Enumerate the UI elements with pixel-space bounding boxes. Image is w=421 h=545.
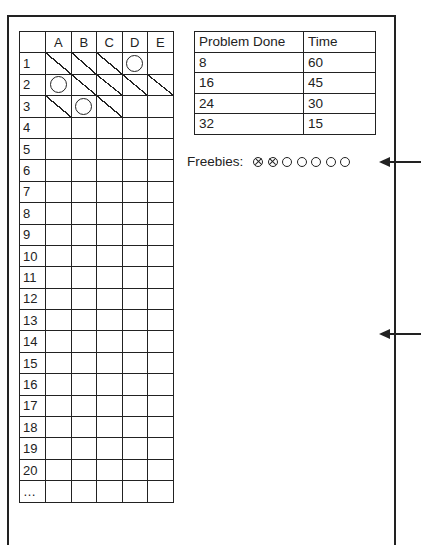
grid-row: 5 [20,138,174,159]
circle-mark-cell [122,53,148,74]
empty-cell [46,459,72,480]
grid-row: 17 [20,395,174,416]
empty-cell [122,245,148,266]
empty-cell [148,288,174,309]
freebie-tokens [253,157,355,167]
empty-cell [71,395,97,416]
slash-mark-cell [46,53,72,74]
row-label: 13 [20,310,46,331]
empty-cell [97,203,123,224]
empty-cell [71,203,97,224]
progress-header-cell: Problem Done [195,32,304,53]
empty-cell [46,288,72,309]
freebies-row: Freebies: [187,154,355,169]
progress-header-row: Problem DoneTime [195,32,376,53]
left-arrow-icon [381,333,421,335]
empty-cell [46,117,72,138]
empty-cell [46,352,72,373]
empty-cell [71,352,97,373]
grid-row: 3 [20,96,174,117]
empty-cell [122,331,148,352]
row-label: 8 [20,203,46,224]
grid-row: 8 [20,203,174,224]
progress-row: 860 [195,52,376,73]
left-arrow-icon [381,161,421,163]
empty-cell [148,117,174,138]
grid-row: 4 [20,117,174,138]
empty-cell [97,331,123,352]
empty-cell [71,481,97,502]
problem-grid: ABCDE1234567891011121314151617181920… [19,31,174,503]
empty-cell [148,203,174,224]
empty-cell [71,417,97,438]
empty-cell [97,438,123,459]
column-header-a: A [46,32,72,53]
empty-cell [71,438,97,459]
empty-cell [97,459,123,480]
problems-done-value: 32 [195,114,304,135]
empty-cell [148,417,174,438]
progress-header-cell: Time [304,32,376,53]
empty-cell [97,395,123,416]
empty-cell [97,481,123,502]
empty-cell [46,481,72,502]
empty-cell [122,96,148,117]
empty-cell [97,138,123,159]
empty-cell [97,117,123,138]
problems-done-value: 16 [195,73,304,94]
empty-cell [71,374,97,395]
empty-cell [46,310,72,331]
slash-mark-cell [122,74,148,95]
row-label: 15 [20,352,46,373]
grid-row: 20 [20,459,174,480]
empty-cell [148,481,174,502]
grid-row: 10 [20,245,174,266]
row-label: 18 [20,417,46,438]
empty-cell [148,245,174,266]
row-label: 12 [20,288,46,309]
empty-cell [97,374,123,395]
slash-mark-cell [97,96,123,117]
empty-cell [122,395,148,416]
circle-mark-cell [46,74,72,95]
empty-cell [97,417,123,438]
empty-cell [122,138,148,159]
unused-freebie-icon [297,157,307,167]
unused-freebie-icon [311,157,321,167]
freebies-label: Freebies: [187,154,243,169]
empty-cell [148,267,174,288]
unused-freebie-icon [282,157,292,167]
column-header-d: D [122,32,148,53]
empty-cell [148,438,174,459]
row-label: … [20,481,46,502]
row-label: 19 [20,438,46,459]
used-freebie-icon [268,157,278,167]
empty-cell [71,245,97,266]
grid-row: 9 [20,224,174,245]
empty-cell [122,267,148,288]
empty-cell [71,160,97,181]
row-label: 17 [20,395,46,416]
time-value: 60 [304,52,376,73]
empty-cell [97,310,123,331]
problems-done-value: 24 [195,93,304,114]
empty-cell [71,288,97,309]
column-header-b: B [71,32,97,53]
column-header-e: E [148,32,174,53]
grid-row: … [20,481,174,502]
empty-cell [122,352,148,373]
empty-cell [122,417,148,438]
empty-cell [148,138,174,159]
grid-header-row: ABCDE [20,32,174,53]
empty-cell [148,310,174,331]
grid-row: 13 [20,310,174,331]
empty-cell [97,160,123,181]
empty-cell [148,160,174,181]
row-label: 11 [20,267,46,288]
empty-cell [148,374,174,395]
grid-row: 15 [20,352,174,373]
time-value: 30 [304,93,376,114]
grid-row: 14 [20,331,174,352]
empty-cell [122,117,148,138]
empty-cell [122,459,148,480]
